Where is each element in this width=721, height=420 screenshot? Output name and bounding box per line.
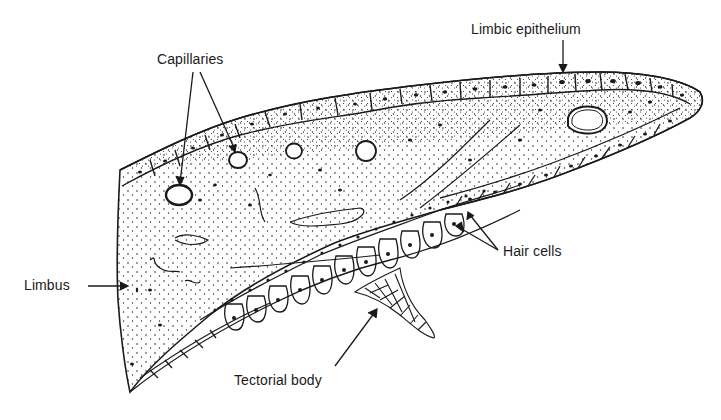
label-hair-cells: Hair cells — [503, 243, 562, 259]
hair-cells-pointer-2 — [470, 215, 498, 250]
tissue-drawing — [0, 0, 721, 420]
tectorial-body-pointer — [335, 312, 375, 366]
hair-cells-pointer-1 — [460, 228, 498, 250]
label-tectorial-body: Tectorial body — [234, 372, 322, 388]
diagram-canvas: Limbic epithelium Capillaries Limbus Hai… — [0, 0, 721, 420]
label-limbic-epithelium: Limbic epithelium — [471, 21, 581, 37]
label-limbus: Limbus — [24, 277, 70, 293]
label-capillaries: Capillaries — [157, 51, 223, 67]
